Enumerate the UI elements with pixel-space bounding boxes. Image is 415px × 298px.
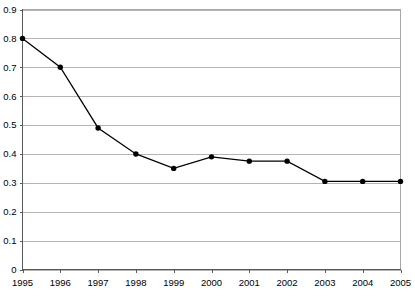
chart-background (0, 0, 415, 298)
x-axis-label: 1995 (12, 277, 33, 288)
y-axis-label: 0.6 (3, 91, 16, 102)
data-point-marker (247, 158, 252, 163)
x-axis-label: 2004 (352, 277, 373, 288)
data-point-marker (398, 179, 403, 184)
x-axis-label: 2001 (239, 277, 260, 288)
y-axis-label: 0.3 (3, 177, 16, 188)
y-axis-label: 0.5 (3, 119, 16, 130)
y-axis-label: 0.2 (3, 206, 16, 217)
x-axis-label: 2003 (314, 277, 335, 288)
y-axis-label: 0.7 (3, 62, 16, 73)
x-axis-label: 1998 (125, 277, 146, 288)
x-axis-label: 1996 (50, 277, 71, 288)
data-point-marker (209, 154, 214, 159)
data-point-marker (360, 179, 365, 184)
y-axis-label: 0.1 (3, 235, 16, 246)
data-point-marker (95, 125, 100, 130)
y-axis-label: 0.8 (3, 33, 16, 44)
x-axis-label: 2002 (277, 277, 298, 288)
chart-canvas: 00.10.20.30.40.50.60.70.80.9 19951996199… (0, 0, 415, 298)
data-point-marker (322, 179, 327, 184)
data-point-marker (58, 65, 63, 70)
y-axis-label: 0.4 (3, 148, 16, 159)
data-point-marker (20, 36, 25, 41)
x-axis-label: 2000 (201, 277, 222, 288)
y-axis-label: 0.9 (3, 4, 16, 15)
line-chart: 00.10.20.30.40.50.60.70.80.9 19951996199… (0, 0, 415, 298)
x-axis-label: 1997 (88, 277, 109, 288)
x-axis-label: 1999 (163, 277, 184, 288)
data-point-marker (171, 166, 176, 171)
x-axis-label: 2005 (390, 277, 411, 288)
data-point-marker (284, 158, 289, 163)
y-axis-label: 0 (11, 264, 16, 275)
data-point-marker (133, 151, 138, 156)
